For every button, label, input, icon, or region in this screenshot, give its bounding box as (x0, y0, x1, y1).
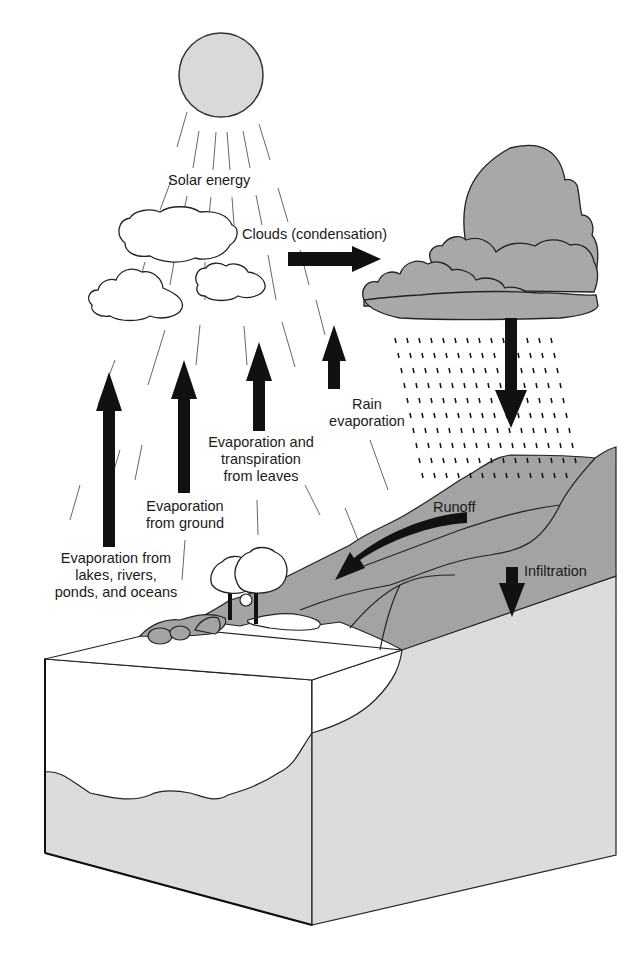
label-clouds: Clouds (condensation) (242, 226, 387, 243)
arrow-up-ground-icon (171, 360, 197, 493)
arrow-up-rain-icon (322, 325, 346, 389)
sun (179, 33, 263, 117)
label-evaporation-transpiration: Evaporation and transpiration from leave… (196, 434, 326, 485)
storm-cloud (363, 145, 598, 319)
label-evaporation-ground: Evaporation from ground (130, 498, 240, 532)
label-runoff: Runoff (433, 499, 475, 516)
label-solar-energy: Solar energy (168, 172, 250, 189)
label-infiltration: Infiltration (524, 563, 587, 580)
white-clouds (89, 207, 265, 321)
arrow-right-icon (288, 246, 381, 272)
ground-block (45, 576, 616, 925)
label-evaporation-water: Evaporation from lakes, rivers, ponds, a… (36, 550, 196, 601)
arrow-down-precipitation-icon (495, 318, 527, 428)
label-rain-evaporation: Rain evaporation (317, 396, 417, 430)
arrow-up-leaves-icon (246, 342, 272, 431)
arrow-up-water-icon (96, 372, 122, 547)
